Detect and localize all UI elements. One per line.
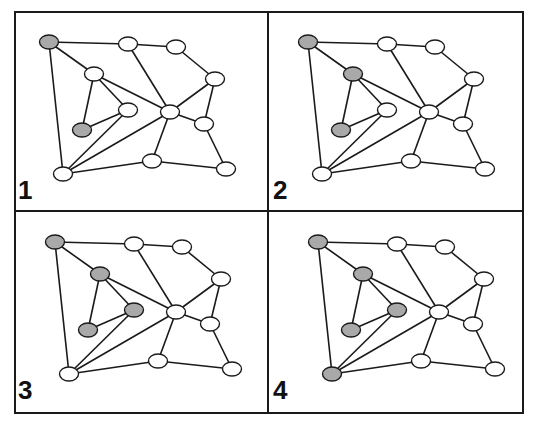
graph-node-C <box>436 240 455 254</box>
graph-node-J-shaded <box>323 367 342 381</box>
graph-edge-A-J <box>318 242 332 374</box>
graph-node-A-shaded <box>309 235 328 249</box>
panel-label-4: 4 <box>273 377 287 403</box>
graph-node-H <box>430 305 449 319</box>
graph-edge-A-B <box>318 242 397 244</box>
graph-panel-4 <box>0 0 536 422</box>
graph-node-B <box>388 237 407 251</box>
graph-node-F-shaded <box>388 303 407 317</box>
graph-edge-E-G <box>351 274 363 330</box>
graph-node-E-shaded <box>354 267 373 281</box>
graph-node-G-shaded <box>342 323 361 337</box>
graph-edge-J-K <box>332 361 421 374</box>
graph-node-I <box>464 317 483 331</box>
graph-edge-K-L <box>421 361 495 369</box>
graph-node-K <box>412 354 431 368</box>
graph-node-L <box>486 362 505 376</box>
graph-node-D <box>475 272 494 286</box>
